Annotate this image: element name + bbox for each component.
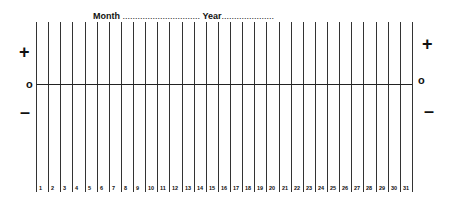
day-number: 10 <box>148 185 154 191</box>
day-column-line <box>412 22 413 192</box>
day-number: 13 <box>185 185 191 191</box>
day-number: 4 <box>75 185 78 191</box>
day-column-line <box>242 22 243 192</box>
day-column-line <box>339 22 340 192</box>
day-number: 26 <box>342 185 348 191</box>
day-column-line <box>145 22 146 192</box>
day-column-line <box>133 22 134 192</box>
day-column-line <box>60 22 61 192</box>
day-number: 30 <box>391 185 397 191</box>
day-column-line <box>194 22 195 192</box>
plus-sign-right: + <box>422 35 433 53</box>
day-column-line <box>85 22 86 192</box>
day-column-line <box>218 22 219 192</box>
year-field[interactable]: ..................... <box>221 11 274 21</box>
day-column-line <box>48 22 49 192</box>
day-column-line <box>109 22 110 192</box>
day-number: 27 <box>354 185 360 191</box>
zero-baseline <box>36 84 412 85</box>
day-column-line <box>351 22 352 192</box>
day-number: 16 <box>221 185 227 191</box>
month-field[interactable]: ............................... <box>123 11 201 21</box>
day-column-line <box>72 22 73 192</box>
day-number: 21 <box>282 185 288 191</box>
minus-sign-left: – <box>20 103 30 121</box>
day-number: 31 <box>403 185 409 191</box>
day-column-line <box>376 22 377 192</box>
month-label: Month <box>93 11 120 21</box>
day-number: 6 <box>100 185 103 191</box>
day-column-line <box>206 22 207 192</box>
day-number: 15 <box>209 185 215 191</box>
day-number: 1 <box>39 185 42 191</box>
plus-sign-left: + <box>19 43 30 61</box>
day-column-line <box>266 22 267 192</box>
day-column-line <box>327 22 328 192</box>
day-column-line <box>291 22 292 192</box>
day-column-line <box>315 22 316 192</box>
day-number: 2 <box>51 185 54 191</box>
day-number: 19 <box>257 185 263 191</box>
day-number: 5 <box>88 185 91 191</box>
day-column-line <box>254 22 255 192</box>
day-column-line <box>157 22 158 192</box>
zero-label-right: o <box>418 74 425 86</box>
day-column-line <box>36 22 37 192</box>
day-number: 18 <box>245 185 251 191</box>
zero-label-left: o <box>26 78 33 90</box>
day-column-line <box>97 22 98 192</box>
day-number: 20 <box>269 185 275 191</box>
day-number: 25 <box>330 185 336 191</box>
day-column-line <box>279 22 280 192</box>
day-number: 12 <box>172 185 178 191</box>
day-number: 8 <box>124 185 127 191</box>
day-number: 28 <box>366 185 372 191</box>
day-number: 22 <box>294 185 300 191</box>
day-number: 29 <box>379 185 385 191</box>
day-number: 14 <box>197 185 203 191</box>
day-column-line <box>230 22 231 192</box>
day-number: 24 <box>318 185 324 191</box>
day-column-line <box>303 22 304 192</box>
minus-sign-right: – <box>424 102 434 120</box>
day-number: 11 <box>160 185 166 191</box>
day-column-line <box>388 22 389 192</box>
day-number: 9 <box>136 185 139 191</box>
day-column-line <box>400 22 401 192</box>
day-number: 3 <box>63 185 66 191</box>
day-column-line <box>182 22 183 192</box>
year-label: Year <box>202 11 221 21</box>
day-number: 23 <box>306 185 312 191</box>
day-number: 17 <box>233 185 239 191</box>
day-number: 7 <box>112 185 115 191</box>
day-column-line <box>363 22 364 192</box>
month-year-header: Month ............................... Ye… <box>93 11 274 21</box>
day-column-line <box>121 22 122 192</box>
day-column-line <box>169 22 170 192</box>
